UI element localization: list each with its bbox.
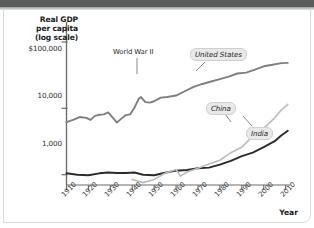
y-axis-title-line-2: per capita (10, 24, 78, 33)
series-label-united-states: United States (190, 48, 247, 61)
y-axis-title-line-3: (log scale) (10, 33, 78, 42)
y-tick-label-100000: $100,000 (10, 44, 62, 53)
annotation-world-war-2: World War II (113, 48, 153, 56)
series-label-china: China (206, 102, 236, 115)
series-line-china (132, 104, 288, 182)
y-tick-label-10000: 10,000 (10, 91, 62, 100)
y-tick-label-1000: 1,000 (10, 139, 62, 148)
leader-line-india (243, 116, 252, 126)
series-line-united-states (67, 63, 288, 123)
chart-figure: Real GDP per capita (log scale) $100,000… (0, 0, 314, 228)
leader-line-china (225, 114, 231, 122)
data-series-group (67, 63, 288, 183)
series-label-india: India (246, 127, 273, 140)
y-axis-title: Real GDP per capita (log scale) (10, 15, 78, 43)
y-axis-title-line-1: Real GDP (10, 15, 78, 24)
x-axis-title: Year (279, 208, 298, 217)
leader-line-united-states (196, 62, 205, 71)
